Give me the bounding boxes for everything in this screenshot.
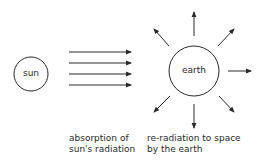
absorption-caption-line1: absorption of xyxy=(69,133,135,144)
sun-label: sun xyxy=(1,68,61,78)
earth-label: earth xyxy=(164,65,224,75)
absorption-caption: absorption of sun's radiation xyxy=(69,133,135,155)
reradiation-caption-line1: re-radiation to space xyxy=(147,133,241,144)
outgoing-ray-arrow-up-right xyxy=(218,29,234,46)
outgoing-ray-arrow-down-left xyxy=(154,96,170,112)
outgoing-ray-arrow-up-left xyxy=(154,29,169,46)
incoming-rays xyxy=(69,52,131,85)
reradiation-caption: re-radiation to space by the earth xyxy=(147,133,241,155)
outgoing-ray-arrow-down-right xyxy=(219,96,234,112)
reradiation-caption-line2: by the earth xyxy=(147,144,241,155)
absorption-caption-line2: sun's radiation xyxy=(69,144,135,155)
